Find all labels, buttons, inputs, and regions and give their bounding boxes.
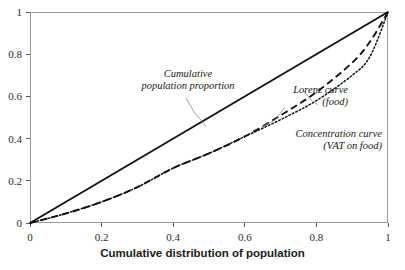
- y-tick-label: 0.8: [0, 49, 22, 60]
- data-series-group: [30, 12, 388, 223]
- x-tick-label: 0.4: [166, 232, 180, 243]
- x-axis-title: Cumulative distribution of population: [0, 247, 405, 259]
- x-tick-label: 0: [27, 232, 33, 243]
- annotation-lorenz-curve: Lorenz curve (food): [224, 84, 348, 108]
- y-tick-label: 0.4: [0, 133, 22, 144]
- x-tick-label: 0.8: [310, 232, 324, 243]
- annotation-concentration-curve: Concentration curve (VAT on food): [216, 128, 382, 152]
- annotation-line-2: (food): [224, 96, 348, 108]
- annotation-line-2: (VAT on food): [216, 140, 382, 152]
- y-tick-label: 0.2: [0, 175, 22, 186]
- chart-figure: 00.20.40.60.81 00.20.40.60.81 Cumulative…: [0, 0, 405, 270]
- y-tick-label: 1: [0, 7, 22, 18]
- annotation-line-1: Concentration curve: [216, 128, 382, 140]
- x-axis-ticks: [30, 223, 388, 227]
- y-tick-label: 0.6: [0, 91, 22, 102]
- y-axis-ticks: [26, 12, 30, 223]
- x-tick-label: 0.2: [95, 232, 109, 243]
- series-line-0: [30, 12, 388, 223]
- x-tick-label: 0.6: [238, 232, 252, 243]
- annotation-line-1: Lorenz curve: [224, 84, 348, 96]
- x-tick-label: 1: [385, 232, 391, 243]
- y-tick-label: 0: [0, 218, 22, 229]
- annotation-line-1: Cumulative: [118, 68, 258, 80]
